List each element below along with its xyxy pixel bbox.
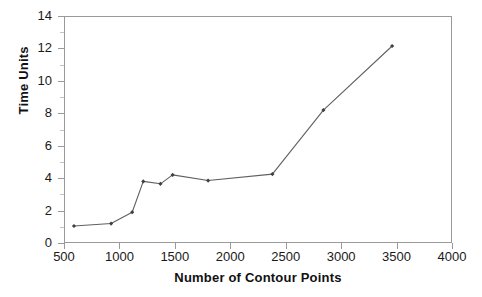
x-tick-label: 3500: [373, 250, 421, 263]
x-tick-label: 3000: [317, 250, 365, 263]
series-markers-time-units: [72, 44, 394, 228]
x-axis-title: Number of Contour Points: [64, 270, 452, 285]
x-tick-label: 500: [40, 250, 88, 263]
data-point-marker: [130, 210, 134, 214]
data-point-marker: [206, 178, 210, 182]
x-tick-label: 4000: [428, 250, 476, 263]
data-point-marker: [109, 221, 113, 225]
chart-figure: 02468101214 5001000150020002500300035004…: [0, 0, 482, 297]
x-tick-label: 2000: [206, 250, 254, 263]
data-series-layer: [64, 16, 452, 243]
data-point-marker: [141, 179, 145, 183]
data-point-marker: [72, 224, 76, 228]
x-tick-label: 1500: [151, 250, 199, 263]
x-tick-label: 2500: [262, 250, 310, 263]
series-line-time-units: [74, 46, 392, 226]
y-axis-title: Time Units: [16, 93, 31, 115]
x-tick-label: 1000: [95, 250, 143, 263]
